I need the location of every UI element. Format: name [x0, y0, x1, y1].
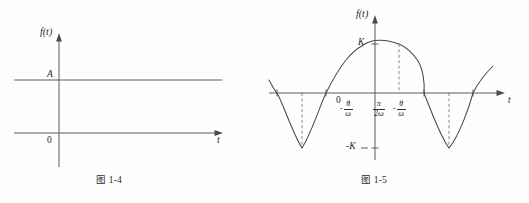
y-axis	[372, 15, 378, 160]
fraction: θ ω	[397, 100, 406, 119]
figure-sheet: f(t) t A 0 图 1-4	[0, 0, 529, 203]
figure-1-5: f(t) t K -K 0 - θ ω π 2ω	[265, 0, 529, 203]
x-axis-label: t	[508, 96, 511, 106]
numerator: θ	[398, 100, 404, 108]
y-axis-label: f(t)	[40, 27, 52, 37]
figure-1-5-caption: 图 1-5	[361, 172, 387, 186]
x-tick-label-minus-theta-over-omega-1: - θ ω	[340, 100, 353, 119]
y-axis-ticks	[361, 44, 379, 148]
figure-1-4: f(t) t A 0 图 1-4	[0, 0, 265, 203]
x-axis-label: t	[217, 136, 220, 146]
y-axis	[56, 33, 62, 167]
x-tick-label-pi-over-2omega: π 2ω	[372, 100, 385, 119]
figure-1-4-caption: 图 1-4	[96, 172, 122, 186]
minus-sign: -	[340, 105, 343, 114]
origin-label: 0	[47, 136, 52, 146]
y-axis-label: f(t)	[356, 9, 368, 19]
minus-sign: -	[393, 105, 396, 114]
y-value-label-K: K	[358, 38, 364, 48]
denominator: ω	[397, 110, 405, 118]
denominator: 2ω	[373, 110, 385, 118]
sine-curve	[269, 40, 493, 148]
y-value-label-negative-K: -K	[346, 142, 356, 152]
fraction: π 2ω	[373, 100, 385, 119]
x-tick-label-minus-theta-over-omega-2: - θ ω	[393, 100, 406, 119]
x-axis	[269, 90, 505, 96]
x-axis	[14, 130, 223, 136]
fraction: θ ω	[344, 100, 353, 119]
numerator: θ	[345, 100, 351, 108]
y-value-label-A: A	[47, 70, 53, 80]
numerator: π	[376, 100, 382, 108]
dashed-guides	[302, 44, 449, 148]
denominator: ω	[344, 110, 352, 118]
